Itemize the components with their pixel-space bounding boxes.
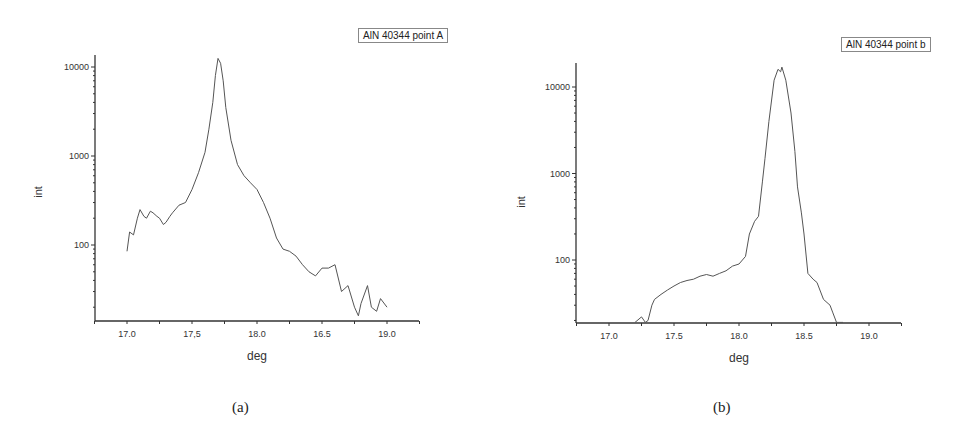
chart-panel-b: 17.017.518.018.519.0100100010000 AlN 403… <box>483 0 966 441</box>
data-line <box>127 58 387 315</box>
x-tick-label: 17,5 <box>183 329 201 339</box>
x-axis-label-a: deg <box>247 349 267 363</box>
x-tick-label: 16.5 <box>313 329 331 339</box>
x-tick-label: 17.0 <box>600 331 618 341</box>
x-tick-label: 19.0 <box>378 329 396 339</box>
caption-b: (b) <box>713 399 731 416</box>
x-tick-label: 17.0 <box>118 329 136 339</box>
y-tick-label: 10000 <box>545 82 570 92</box>
x-tick-label: 18.0 <box>248 329 266 339</box>
y-tick-label: 1000 <box>69 151 89 161</box>
y-tick-label: 100 <box>74 240 89 250</box>
legend-b: AlN 40344 point b <box>841 37 931 52</box>
y-tick-label: 100 <box>555 255 570 265</box>
y-axis-label-a: int <box>32 186 44 198</box>
caption-a: (a) <box>232 399 249 416</box>
x-axis-label-b: deg <box>729 351 749 365</box>
y-tick-label: 10000 <box>64 62 89 72</box>
x-tick-label: 19.0 <box>860 331 878 341</box>
y-axis-label-b: int <box>515 196 527 208</box>
legend-a: AlN 40344 point A <box>358 28 448 43</box>
chart-a-plot: 17.017,518.016.519.0100100010000 <box>0 0 483 441</box>
y-tick-label: 1000 <box>550 169 570 179</box>
chart-panel-a: 17.017,518.016.519.0100100010000 AlN 403… <box>0 0 483 441</box>
x-tick-label: 18.0 <box>730 331 748 341</box>
chart-b-plot: 17.017.518.018.519.0100100010000 <box>483 0 966 441</box>
x-tick-label: 17.5 <box>665 331 683 341</box>
x-tick-label: 18.5 <box>795 331 813 341</box>
data-line <box>635 67 843 322</box>
